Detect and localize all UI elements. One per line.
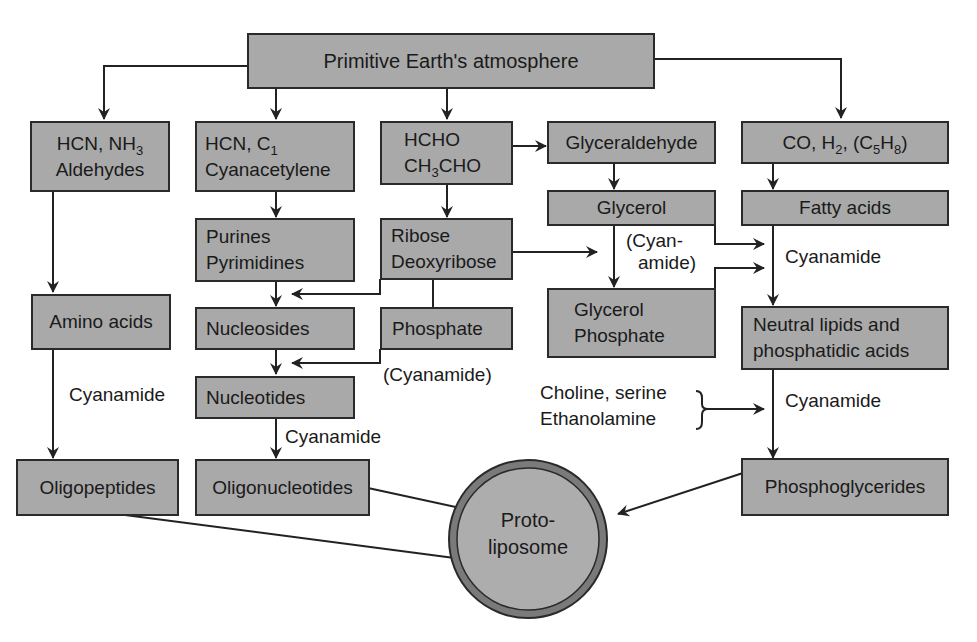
node-glyceraldehyde: Glyceraldehyde — [547, 121, 716, 164]
node-primitive-earth-atmosphere: Primitive Earth's atmosphere — [247, 33, 655, 89]
node-label: Purines — [206, 224, 353, 250]
node-fatty-acids: Fatty acids — [741, 190, 949, 226]
diagram-canvas: Primitive Earth's atmosphere HCN, NH3 Al… — [0, 0, 977, 642]
node-label: Glycerol — [574, 297, 714, 323]
node-phosphate: Phosphate — [380, 307, 513, 350]
node-glycerol-phosphate: Glycerol Phosphate — [547, 288, 716, 358]
node-oligonucleotides: Oligonucleotides — [195, 459, 370, 516]
node-label: Phosphate — [574, 323, 714, 349]
annotation-line: Choline, serine — [540, 380, 667, 406]
node-label: Aldehydes — [32, 157, 168, 183]
node-nucleosides: Nucleosides — [195, 307, 355, 350]
node-label: HCN, C1 — [205, 131, 353, 157]
node-label: phosphatidic acids — [753, 338, 947, 364]
annotation-line: (Cyan- — [626, 230, 696, 252]
node-amino-acids: Amino acids — [31, 294, 171, 350]
node-label: Ribose — [391, 223, 511, 249]
node-phosphoglycerides: Phosphoglycerides — [741, 458, 949, 516]
annotation-cyanamide-neutral-lipids: Cyanamide — [785, 388, 881, 414]
annotation-cyanamide-amino-acids: Cyanamide — [69, 382, 165, 408]
node-label: Primitive Earth's atmosphere — [249, 48, 653, 74]
node-label: Nucleotides — [206, 385, 353, 411]
node-nucleotides: Nucleotides — [195, 376, 355, 419]
node-oligopeptides: Oligopeptides — [16, 459, 179, 516]
node-hcho-ch3cho: HCHO CH3CHO — [380, 121, 513, 185]
node-ribose-deoxyribose: Ribose Deoxyribose — [380, 218, 513, 280]
annotation-line: Ethanolamine — [540, 406, 667, 432]
node-hcn-c1-cyanacetylene: HCN, C1 Cyanacetylene — [195, 121, 355, 192]
annotation-cyanamide-nucleotides: Cyanamide — [285, 424, 381, 450]
node-hcn-nh3-aldehydes: HCN, NH3 Aldehydes — [30, 121, 170, 192]
node-label: HCN, NH3 — [32, 131, 168, 157]
node-protoliposome: Proto- liposome — [468, 507, 588, 561]
node-label: Phosphate — [392, 316, 511, 342]
annotation-cyanamide-fatty-acids: Cyanamide — [785, 244, 881, 270]
node-label: Proto- — [468, 507, 588, 534]
node-label: CH3CHO — [404, 153, 511, 179]
node-label: Neutral lipids and — [753, 312, 947, 338]
node-label: Glycerol — [549, 195, 714, 221]
annotation-line: amide) — [626, 252, 696, 274]
node-glycerol: Glycerol — [547, 190, 716, 226]
node-co-h2-c5h8: CO, H2, (C5H8) — [741, 121, 949, 164]
node-label: HCHO — [404, 127, 511, 153]
node-label: Oligopeptides — [18, 475, 177, 501]
node-label: CO, H2, (C5H8) — [743, 130, 947, 156]
annotation-choline-serine-ethanolamine: Choline, serine Ethanolamine — [540, 380, 667, 432]
node-label: Amino acids — [33, 309, 169, 335]
node-label: liposome — [468, 534, 588, 561]
node-label: Nucleosides — [206, 316, 353, 342]
node-neutral-lipids-phosphatidic-acids: Neutral lipids and phosphatidic acids — [741, 306, 949, 370]
node-label: Deoxyribose — [391, 249, 511, 275]
node-label: Cyanacetylene — [205, 157, 353, 183]
node-label: Phosphoglycerides — [743, 474, 947, 500]
node-label: Pyrimidines — [206, 250, 353, 276]
node-label: Fatty acids — [743, 195, 947, 221]
node-purines-pyrimidines: Purines Pyrimidines — [195, 218, 355, 282]
node-label: Oligonucleotides — [197, 475, 368, 501]
annotation-cyanamide-glycerol: (Cyan- amide) — [626, 230, 696, 274]
node-label: Glyceraldehyde — [549, 130, 714, 156]
annotation-cyanamide-phosphate: (Cyanamide) — [383, 362, 492, 388]
